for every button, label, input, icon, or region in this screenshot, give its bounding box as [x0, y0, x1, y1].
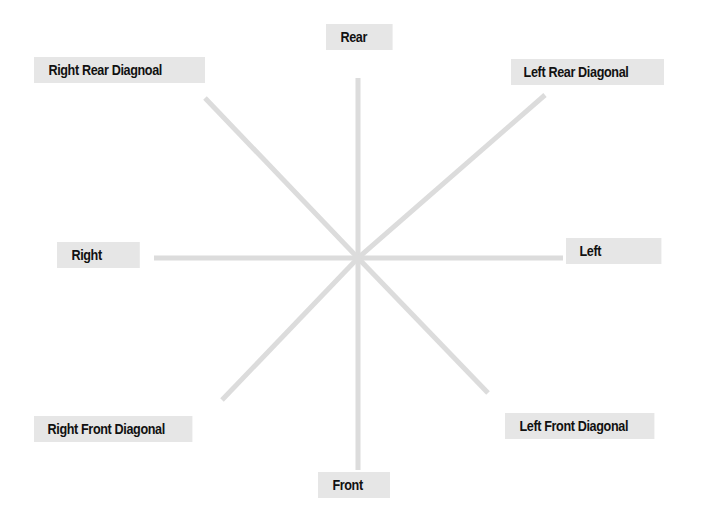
label-rear: Rear [326, 24, 393, 50]
spoke-right-rear-diagonal [205, 98, 358, 258]
label-right-front-diagonal: Right Front Diagonal [34, 416, 192, 442]
label-right-front-diagonal-text: Right Front Diagonal [48, 421, 165, 437]
spoke-right-front-diagonal [222, 258, 358, 400]
label-right: Right [57, 242, 140, 268]
label-left: Left [566, 238, 661, 264]
spoke-left-rear-diagonal [358, 95, 545, 258]
label-right-text: Right [71, 247, 101, 263]
label-left-front-diagonal-text: Left Front Diagonal [519, 418, 628, 434]
label-rear-text: Rear [340, 29, 367, 45]
label-left-text: Left [580, 243, 602, 259]
label-left-rear-diagonal: Left Rear Diagonal [511, 59, 664, 85]
label-right-rear-diagonal-text: Right Rear Diagnoal [48, 62, 162, 78]
label-right-rear-diagonal: Right Rear Diagnoal [34, 57, 205, 83]
label-front-text: Front [332, 477, 362, 493]
label-front: Front [318, 472, 390, 498]
label-left-rear-diagonal-text: Left Rear Diagonal [524, 64, 629, 80]
label-left-front-diagonal: Left Front Diagonal [505, 413, 654, 439]
spoke-left-front-diagonal [358, 258, 488, 393]
